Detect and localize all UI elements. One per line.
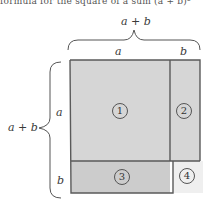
- label-top-b: b: [180, 46, 187, 57]
- label-top-a: a: [115, 46, 122, 57]
- label-left-b: b: [57, 175, 64, 186]
- label-left-a: a: [56, 107, 63, 118]
- region-2-number: 2: [176, 103, 192, 119]
- label-top-total: a + b: [121, 16, 151, 27]
- label-left-total: a + b: [8, 122, 38, 133]
- region-3-number: 3: [114, 169, 130, 185]
- region-4-number: 4: [179, 168, 195, 184]
- region-1-number: 1: [112, 103, 128, 119]
